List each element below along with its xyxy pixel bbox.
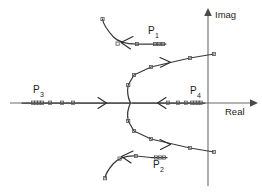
locus-markers-parabola-upper bbox=[127, 52, 216, 86]
locus-markers-parabola-lower bbox=[127, 119, 216, 153]
pole-label-p4-text: P bbox=[190, 85, 197, 96]
real-axis-label: Real bbox=[225, 106, 245, 117]
pole-label-p4-subscript: 4 bbox=[197, 92, 201, 99]
pole-label-p3: P 3 bbox=[33, 84, 44, 98]
pole-label-p2: P 2 bbox=[153, 159, 164, 173]
pole-label-p3-subscript: 3 bbox=[40, 91, 44, 98]
imag-axis-label: Imag bbox=[215, 9, 236, 20]
root-locus-plot: Real Imag bbox=[0, 0, 262, 196]
branch-parabola-upper bbox=[127, 52, 216, 103]
pole-label-p1: P 1 bbox=[148, 25, 159, 39]
branch-real-axis-left-P3 bbox=[22, 98, 130, 109]
pole-label-p1-text: P bbox=[148, 25, 155, 36]
real-axis-arrowhead bbox=[250, 99, 258, 107]
root-locus-figure: Real Imag bbox=[0, 0, 262, 196]
pole-marker bbox=[116, 42, 119, 45]
branch-parabola-lower bbox=[127, 103, 216, 154]
pole-label-p4: P 4 bbox=[190, 85, 201, 99]
pole-label-p3-text: P bbox=[33, 84, 40, 95]
locus-path-parabola-upper bbox=[128, 54, 214, 103]
branch-real-axis-right-P4 bbox=[132, 98, 205, 109]
pole-label-p2-text: P bbox=[153, 159, 160, 170]
direction-arrow-parabola-upper bbox=[160, 58, 171, 68]
pole-label-p1-subscript: 1 bbox=[155, 32, 159, 39]
pole-label-p2-subscript: 2 bbox=[160, 166, 164, 173]
imag-axis-arrowhead bbox=[204, 8, 212, 16]
axes-group: Real Imag bbox=[10, 8, 258, 186]
